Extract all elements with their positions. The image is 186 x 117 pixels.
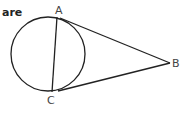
tangent-cb [58, 63, 170, 91]
label-a: A [55, 4, 63, 17]
label-c: C [47, 94, 55, 107]
geometry-diagram: A B C [0, 0, 186, 117]
label-b: B [172, 57, 180, 70]
tangent-ab [60, 18, 170, 63]
circle [11, 17, 85, 91]
chord-ac [52, 17, 57, 92]
